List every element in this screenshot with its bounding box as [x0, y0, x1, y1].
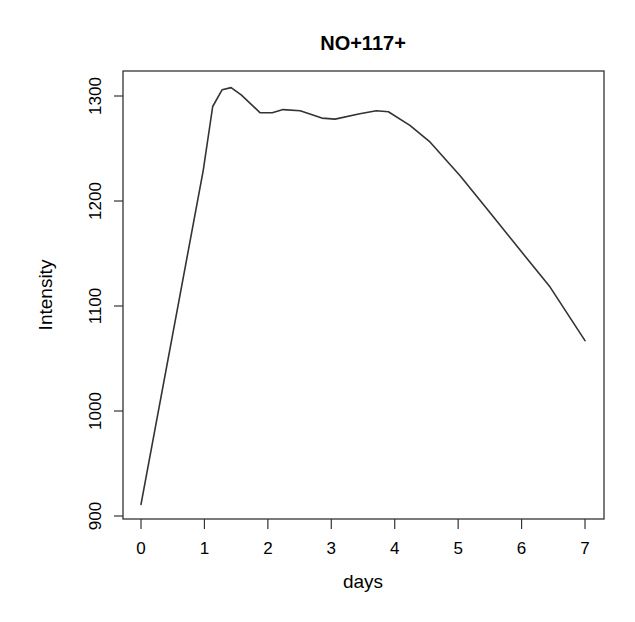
y-axis: 9001000110012001300: [86, 77, 123, 530]
x-axis: 01234567: [136, 519, 589, 558]
x-tick-label: 2: [263, 539, 272, 558]
y-tick-label: 1000: [86, 392, 105, 430]
x-tick-label: 7: [580, 539, 589, 558]
plot-area-frame: [123, 71, 604, 519]
x-axis-label: days: [343, 571, 383, 592]
y-axis-label: Intensity: [35, 259, 56, 330]
y-tick-label: 1200: [86, 182, 105, 220]
y-tick-label: 1300: [86, 77, 105, 115]
x-tick-label: 4: [390, 539, 399, 558]
x-tick-label: 1: [200, 539, 209, 558]
x-tick-label: 5: [453, 539, 462, 558]
line-chart: NO+117+ 9001000110012001300 01234567 day…: [0, 0, 635, 622]
x-tick-label: 0: [136, 539, 145, 558]
x-tick-label: 3: [327, 539, 336, 558]
chart-title: NO+117+: [320, 32, 406, 54]
y-tick-label: 1100: [86, 288, 105, 325]
x-tick-label: 6: [517, 539, 526, 558]
y-tick-label: 900: [86, 502, 105, 530]
intensity-line: [141, 88, 585, 505]
